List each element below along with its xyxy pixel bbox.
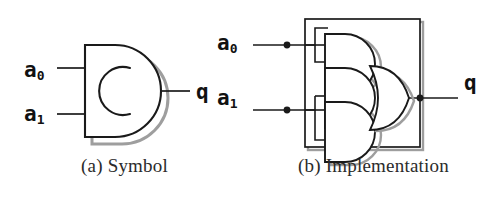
caption-implementation: (b) Implementation bbox=[249, 155, 498, 177]
impl-input-label-a0: a0 bbox=[217, 33, 237, 54]
impl-input-a1-base: a bbox=[217, 86, 230, 110]
impl-input-a0-base: a bbox=[217, 31, 230, 55]
impl-input-a0-subscript: 0 bbox=[230, 41, 238, 56]
impl-input-label-a1: a1 bbox=[217, 88, 237, 109]
panel-implementation: a0 a1 q bbox=[249, 0, 498, 197]
junction-dot-a0 bbox=[284, 42, 291, 49]
figure-root: a0 a1 q (a) Symbol a0 a1 q bbox=[0, 0, 498, 197]
panel-symbol: a0 a1 q (a) Symbol bbox=[0, 0, 249, 197]
and-gate-bottom bbox=[325, 102, 375, 162]
caption-symbol: (a) Symbol bbox=[0, 155, 249, 177]
junction-dot-q bbox=[417, 95, 424, 102]
impl-input-a1-subscript: 1 bbox=[230, 96, 238, 111]
symbol-body bbox=[85, 45, 161, 137]
junction-dot-a1 bbox=[284, 107, 291, 114]
